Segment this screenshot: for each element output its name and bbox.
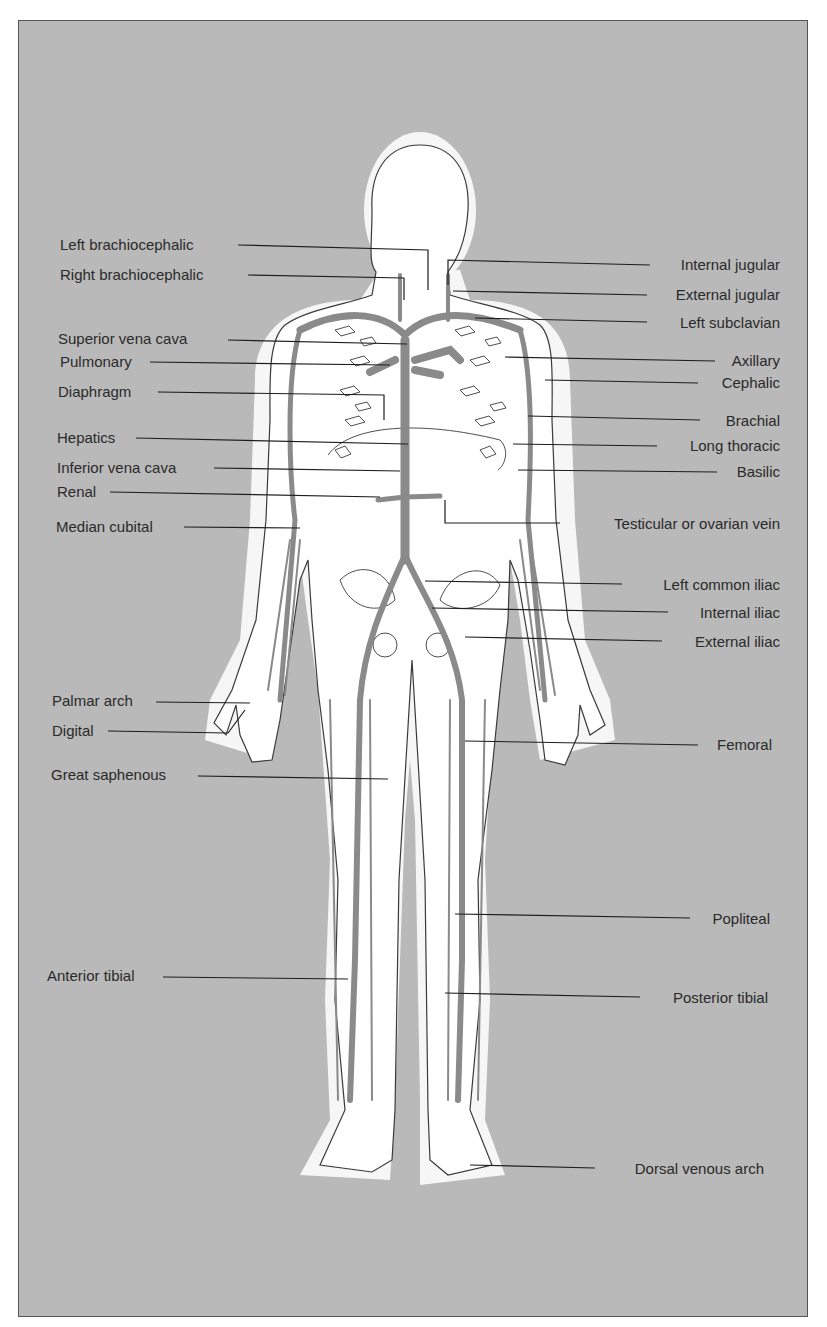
- label-internal-jugular: Internal jugular: [681, 256, 780, 274]
- label-great-saphenous: Great saphenous: [51, 766, 166, 784]
- label-internal-iliac: Internal iliac: [700, 604, 780, 622]
- label-median-cubital: Median cubital: [56, 518, 153, 536]
- label-dorsal-venous-arch: Dorsal venous arch: [635, 1160, 764, 1178]
- label-pulmonary: Pulmonary: [60, 353, 132, 371]
- label-renal: Renal: [57, 483, 96, 501]
- label-basilic: Basilic: [737, 463, 780, 481]
- venous-system-figure: [0, 0, 827, 1327]
- label-left-subclavian: Left subclavian: [680, 314, 780, 332]
- label-external-jugular: External jugular: [676, 286, 780, 304]
- label-cephalic: Cephalic: [722, 374, 780, 392]
- label-hepatics: Hepatics: [57, 429, 115, 447]
- label-diaphragm: Diaphragm: [58, 383, 131, 401]
- label-testicular-or-ovarian-vein: Testicular or ovarian vein: [614, 515, 780, 533]
- label-anterior-tibial: Anterior tibial: [47, 967, 135, 985]
- label-left-common-iliac: Left common iliac: [663, 576, 780, 594]
- label-right-brachiocephalic: Right brachiocephalic: [60, 266, 203, 284]
- label-digital: Digital: [52, 722, 94, 740]
- label-axillary: Axillary: [732, 352, 780, 370]
- label-left-brachiocephalic: Left brachiocephalic: [60, 236, 193, 254]
- label-popliteal: Popliteal: [712, 910, 770, 928]
- label-superior-vena-cava: Superior vena cava: [58, 330, 187, 348]
- label-brachial: Brachial: [726, 412, 780, 430]
- label-external-iliac: External iliac: [695, 633, 780, 651]
- label-palmar-arch: Palmar arch: [52, 692, 133, 710]
- label-inferior-vena-cava: Inferior vena cava: [57, 459, 176, 477]
- label-posterior-tibial: Posterior tibial: [673, 989, 768, 1007]
- label-long-thoracic: Long thoracic: [690, 437, 780, 455]
- label-femoral: Femoral: [717, 736, 772, 754]
